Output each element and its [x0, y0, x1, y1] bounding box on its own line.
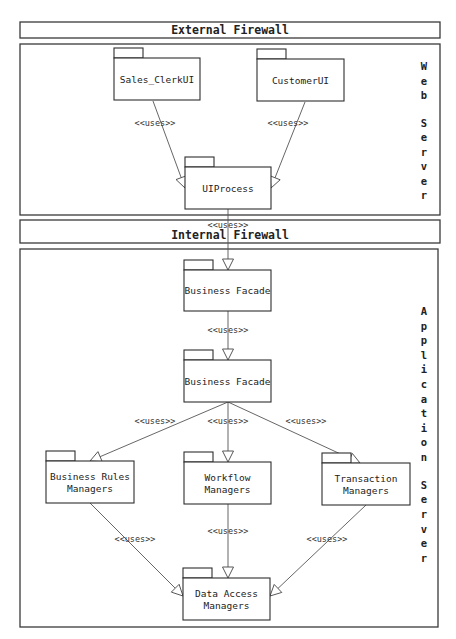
- internal-firewall-label: Internal Firewall: [171, 228, 289, 242]
- package-label: Transaction: [335, 473, 398, 484]
- package-label: Managers: [204, 600, 250, 611]
- package-ui-process[interactable]: UIProcess: [185, 157, 271, 209]
- hollow-arrowhead-icon: [223, 567, 234, 578]
- package-transaction[interactable]: TransactionManagers: [322, 453, 410, 505]
- dependency-line: [278, 505, 366, 588]
- web-server-label-char: b: [421, 89, 427, 101]
- web-server-label-char: W: [421, 60, 428, 72]
- application-server-label-char: a: [421, 393, 427, 405]
- package-tab: [184, 452, 213, 462]
- uses-stereotype-label: <<uses>>: [286, 416, 327, 426]
- application-server-label-char: e: [421, 537, 427, 549]
- hollow-arrowhead-icon: [90, 452, 102, 462]
- package-tab: [185, 157, 214, 167]
- package-sales-clerk-ui[interactable]: Sales_ClerkUI: [114, 48, 200, 100]
- package-label: CustomerUI: [272, 75, 329, 86]
- package-tab: [322, 453, 351, 463]
- web-server-label-char: e: [421, 131, 427, 143]
- external-firewall: External Firewall: [20, 22, 440, 38]
- application-server-label-char: i: [421, 363, 427, 375]
- uses-stereotype-label: <<uses>>: [135, 118, 176, 128]
- package-label: UIProcess: [202, 183, 253, 194]
- uses-stereotype-label: <<uses>>: [208, 220, 249, 230]
- package-label: Data Access: [195, 588, 258, 599]
- dependency-line: [153, 101, 181, 178]
- dependency-sales_clerk_ui-to-ui_process: <<uses>>: [135, 101, 187, 188]
- uses-stereotype-label: <<uses>>: [208, 325, 249, 335]
- application-server-label-char: A: [421, 305, 428, 317]
- application-server-label: ApplicationServer: [421, 305, 428, 564]
- dependency-transaction-to-data_access: <<uses>>: [270, 505, 366, 596]
- hollow-arrowhead-icon: [223, 451, 234, 462]
- web-server-label-char: r: [421, 146, 427, 158]
- dependency-business_rules-to-data_access: <<uses>>: [90, 503, 183, 596]
- application-server-label-char: n: [421, 451, 427, 463]
- package-tab: [183, 568, 212, 578]
- application-server-label-char: l: [421, 349, 427, 361]
- application-server-label-char: r: [421, 552, 427, 564]
- package-label: Sales_ClerkUI: [120, 74, 194, 85]
- dependency-workflow-to-data_access: <<uses>>: [208, 504, 249, 578]
- dependency-line: [90, 503, 175, 588]
- uses-stereotype-label: <<uses>>: [135, 416, 176, 426]
- web-server-label-char: e: [421, 75, 427, 87]
- web-server-label: WebServer: [421, 60, 428, 201]
- application-server-label-char: v: [421, 523, 427, 535]
- package-label: Managers: [205, 484, 251, 495]
- dependency-customer_ui-to-ui_process: <<uses>>: [268, 102, 309, 188]
- application-server-label-char: i: [421, 422, 427, 434]
- application-server-label-char: S: [421, 479, 427, 491]
- package-tab: [184, 350, 213, 360]
- uses-stereotype-label: <<uses>>: [208, 526, 249, 536]
- package-business-rules[interactable]: Business RulesManagers: [46, 451, 134, 503]
- package-label: Business Facade: [185, 376, 271, 387]
- package-label: Business Facade: [185, 285, 271, 296]
- application-server-label-char: r: [421, 508, 427, 520]
- external-firewall-label: External Firewall: [171, 23, 289, 37]
- web-server-label-char: e: [421, 175, 427, 187]
- application-server-label-char: o: [421, 436, 427, 448]
- dependency-business_facade_1-to-business_facade_2: <<uses>>: [208, 311, 249, 360]
- package-tab: [46, 451, 75, 461]
- application-server-label-char: c: [421, 378, 427, 390]
- package-tab: [184, 260, 213, 270]
- hollow-arrowhead-icon: [223, 259, 234, 270]
- uses-stereotype-label: <<uses>>: [268, 118, 309, 128]
- package-tab: [257, 49, 286, 59]
- application-server-label-char: e: [421, 493, 427, 505]
- package-label: Business Rules: [50, 471, 130, 482]
- package-customer-ui[interactable]: CustomerUI: [257, 49, 344, 101]
- uses-stereotype-label: <<uses>>: [307, 534, 348, 544]
- uses-stereotype-label: <<uses>>: [115, 534, 156, 544]
- package-label: Managers: [67, 483, 113, 494]
- hollow-arrowhead-icon: [223, 349, 234, 360]
- dependency-business_facade_2-to-workflow: <<uses>>: [208, 402, 249, 462]
- web-server-label-char: r: [421, 189, 427, 201]
- package-label: Workflow: [205, 472, 251, 483]
- dependency-line: [228, 402, 350, 458]
- application-server-label-char: t: [421, 407, 427, 419]
- dependency-line: [275, 102, 305, 178]
- dependency-line: [100, 402, 228, 457]
- application-server-label-char: p: [421, 320, 427, 332]
- web-server-label-char: v: [421, 160, 427, 172]
- package-tab: [114, 48, 143, 58]
- package-label: Managers: [343, 485, 389, 496]
- web-server-label-char: S: [421, 117, 427, 129]
- package-diagram: External Firewall WebServer Internal Fir…: [0, 0, 456, 639]
- uses-stereotype-label: <<uses>>: [208, 416, 249, 426]
- application-server-label-char: p: [421, 334, 427, 346]
